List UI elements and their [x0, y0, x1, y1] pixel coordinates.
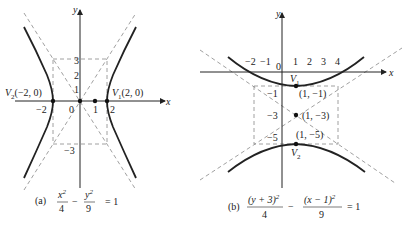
tick-x-0: 0 — [69, 104, 74, 115]
caption-a: (a) x2 4 − y2 9 = 1 — [35, 188, 118, 214]
eq-a-den1: 4 — [59, 203, 64, 214]
vertex-v2-point — [51, 99, 55, 103]
tick-x-2: 2 — [110, 104, 115, 115]
eq-b-rhs: = 1 — [347, 201, 360, 212]
vertex-v1-label: V1(2, 0) — [112, 87, 143, 101]
caption-b: (b) (y + 3)2 4 − (x − 1)2 9 = 1 — [228, 193, 360, 220]
eq-a-num2: y2 — [84, 188, 93, 200]
panel-a: y x 3 2 1 −3 −2 0 1 2 V2(−2, 0) V1(2, 0)… — [5, 4, 171, 214]
x-axis-label-a: x — [165, 96, 171, 107]
eq-b-minus: − — [288, 201, 294, 212]
caption-b-label: (b) — [228, 201, 240, 213]
vertex-v2-label: V2(−2, 0) — [5, 87, 42, 101]
vertex-v2-point-b — [294, 142, 298, 146]
left-branch-a — [24, 27, 53, 178]
eq-b-den1: 4 — [262, 209, 267, 220]
hyperbola-figures: y x 3 2 1 −3 −2 0 1 2 V2(−2, 0) V1(2, 0)… — [0, 0, 405, 229]
y-axis-label-a: y — [72, 4, 78, 15]
caption-a-label: (a) — [35, 195, 46, 207]
origin-point — [78, 99, 82, 103]
tick-x-3-b: 3 — [321, 56, 326, 67]
eq-a-den2: 9 — [86, 203, 91, 214]
tick-x-neg2-b: −2 — [245, 56, 256, 67]
tick-x-1-b: 1 — [293, 56, 298, 67]
tick-x-neg1-b: −1 — [260, 56, 271, 67]
tick-y-neg5-b: −5 — [267, 132, 278, 143]
panel-b: y x −2 −1 0 1 2 3 4 −1 −3 −5 V1 (1, −1) … — [200, 8, 402, 220]
eq-a-minus: − — [72, 196, 78, 207]
tick-y-neg3-b: −3 — [267, 110, 278, 121]
eq-a-rhs: = 1 — [105, 196, 118, 207]
tick-x-4-b: 4 — [335, 56, 340, 67]
tick-x-neg2: −2 — [36, 104, 47, 115]
tick-x-1: 1 — [93, 104, 98, 115]
tick-x-0-b: 0 — [276, 61, 281, 72]
asymptotes-b — [200, 48, 402, 183]
eq-b-den2: 9 — [319, 209, 324, 220]
vertex-v2-label-b: V2 — [291, 147, 301, 161]
vertex-v1-point — [105, 99, 109, 103]
vertex-v2-coord-b: (1, −5) — [296, 129, 323, 141]
tick-y-2: 2 — [74, 70, 79, 81]
point-1 — [93, 99, 97, 103]
vertex-v1-coord-b: (1, −1) — [299, 88, 326, 100]
right-branch-a — [107, 27, 136, 178]
eq-b-num1: (y + 3)2 — [248, 193, 280, 206]
tick-y-1: 1 — [74, 84, 79, 95]
tick-y-neg3: −3 — [64, 145, 75, 156]
eq-a-num1: x2 — [57, 188, 66, 200]
center-point-b — [294, 113, 298, 117]
x-axis-label-b: x — [388, 67, 394, 78]
tick-y-3: 3 — [74, 55, 79, 66]
tick-y-neg1-b: −1 — [267, 88, 278, 99]
center-coord-b: (1, −3) — [302, 110, 329, 122]
tick-x-2-b: 2 — [307, 56, 312, 67]
eq-b-num2: (x − 1)2 — [304, 193, 336, 206]
y-axis-label-b: y — [275, 8, 281, 19]
